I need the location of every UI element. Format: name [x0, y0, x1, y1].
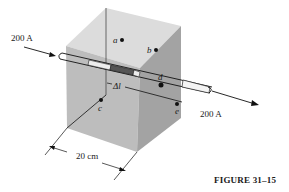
diagram-canvas [0, 0, 289, 192]
arrow-out-head [251, 100, 259, 106]
dim-arrow-right [119, 167, 126, 171]
figure-caption: FIGURE 31–15 [214, 175, 276, 185]
current-out-label: 200 A [200, 110, 222, 119]
point-c-dot [99, 98, 103, 102]
point-d-dot [159, 83, 164, 88]
wire-entry-cap [59, 53, 62, 59]
arrow-in-line [24, 47, 53, 55]
delta-l-label: Δl [113, 82, 121, 91]
point-c-label: c [98, 104, 102, 113]
point-a-dot [120, 38, 124, 42]
point-e-label: e [175, 107, 179, 116]
point-d-label: d [158, 73, 163, 82]
wire-exit-segment [182, 80, 210, 93]
arrow-out-line [212, 91, 255, 104]
dimension-label: 20 cm [76, 152, 98, 161]
point-a-label: a [113, 36, 118, 45]
arrow-in-head [49, 52, 56, 57]
dim-extension-right [114, 152, 137, 180]
current-in-label: 200 A [11, 34, 33, 43]
point-b-label: b [147, 46, 152, 55]
point-b-dot [154, 48, 158, 52]
